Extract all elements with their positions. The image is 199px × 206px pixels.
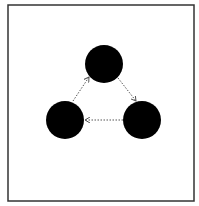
nodes-layer — [46, 45, 161, 139]
node-left — [46, 101, 84, 139]
diagram-canvas — [0, 0, 199, 206]
edge-arrow-top-to-right — [118, 78, 136, 101]
node-right — [123, 101, 161, 139]
edge-arrow-left-to-top — [73, 77, 89, 101]
diagram-frame — [8, 5, 194, 201]
cycle-diagram — [0, 0, 199, 206]
node-top — [85, 45, 123, 83]
